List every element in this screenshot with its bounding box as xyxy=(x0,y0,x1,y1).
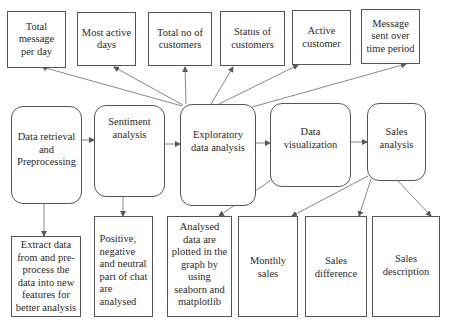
box-sales-difference: Sales difference xyxy=(305,216,367,317)
box-most-active-days: Most active days xyxy=(77,12,136,66)
box-label: Sales analysis xyxy=(380,126,414,151)
box-active-customer: Active customer xyxy=(292,10,351,65)
box-exploratory-data-analysis: Exploratory data analysis xyxy=(180,104,256,206)
box-total-message-per-day: Total message per day xyxy=(7,11,66,68)
box-label: Data visualization xyxy=(284,126,338,151)
box-extract-data: Extract data from and pre- process the d… xyxy=(11,236,81,317)
box-data-retrieval: Data retrieval and Preprocessing xyxy=(11,106,82,204)
box-sentiment-analysis: Sentiment analysis xyxy=(94,105,165,197)
box-label: Sentiment analysis xyxy=(108,116,151,141)
box-analysed-plotted: Analysed data are plotted in the graph b… xyxy=(167,216,232,317)
box-status-of-customers: Status of customers xyxy=(220,11,285,66)
box-label: Extract data from and pre- process the d… xyxy=(16,239,76,314)
box-data-visualization: Data visualization xyxy=(270,103,351,187)
arrow-sales-to-difference xyxy=(359,179,371,216)
box-label: Active customer xyxy=(302,25,341,50)
box-message-sent-over-time: Message sent over time period xyxy=(361,9,420,64)
box-label: Exploratory data analysis xyxy=(191,129,245,154)
arrow-sales-to-description xyxy=(398,181,431,216)
box-label: Sales difference xyxy=(315,255,357,280)
box-label: Message sent over time period xyxy=(366,18,414,56)
box-sales-description: Sales description xyxy=(372,216,440,317)
box-label: Analysed data are plotted in the graph b… xyxy=(172,221,227,309)
box-label: Most active days xyxy=(82,27,131,52)
box-label: Total no of customers xyxy=(157,27,203,52)
box-sentiment-result: Positive, negative and neutral part of c… xyxy=(94,216,153,317)
box-label: Total message per day xyxy=(19,21,55,59)
arrow-eda-to-message-over-time xyxy=(252,64,406,107)
box-sales-analysis: Sales analysis xyxy=(367,103,426,181)
box-label: Sales description xyxy=(383,253,430,278)
arrow-eda-to-active-days xyxy=(114,67,183,105)
box-label: Monthly sales xyxy=(250,255,286,280)
box-label: Positive, negative and neutral part of c… xyxy=(100,233,148,308)
box-total-no-of-customers: Total no of customers xyxy=(148,12,212,66)
arrow-eda-to-total-message xyxy=(42,67,182,106)
arrow-eda-to-total-customers xyxy=(185,67,186,104)
box-label: Data retrieval and Preprocessing xyxy=(17,131,76,169)
box-label: Status of customers xyxy=(231,26,274,51)
box-monthly-sales: Monthly sales xyxy=(238,216,298,317)
